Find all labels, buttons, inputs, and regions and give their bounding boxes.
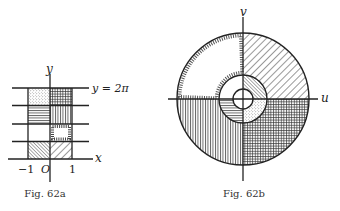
x-axis-label: x [95,151,102,165]
caption-62a: Fig. 62a [24,188,66,199]
u-axis-label: u [321,91,329,105]
cell-hatched-border [53,127,70,140]
v-axis-label: v [240,5,247,19]
figure-62a: y x y = 2π −1 O 1 Fig. 62a [8,62,129,199]
region-outer-qII [177,33,243,99]
y-axis-label: y [45,62,53,76]
origin-label: O [41,163,50,176]
cell-left-row2 [28,124,50,142]
cell-right-row3 [50,106,72,125]
cell-right-row1 [50,142,72,160]
cell-left-row4 [28,88,50,106]
figure-62b: v u Fig. 62b [168,5,329,199]
cell-right-row4 [50,88,72,106]
cell-left-row3 [28,106,50,125]
tick-label-minus-1: −1 [18,163,34,176]
cell-left-row1 [28,142,50,160]
caption-62b: Fig. 62b [223,188,265,199]
figure-canvas: y x y = 2π −1 O 1 Fig. 62a v u Fig. 62b [0,0,340,211]
tick-label-1: 1 [69,163,76,176]
region-hatched-border [180,36,243,99]
top-line-label: y = 2π [91,82,129,95]
